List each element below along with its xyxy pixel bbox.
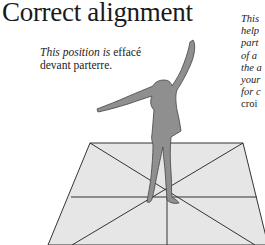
dancer-illustration <box>0 0 265 245</box>
